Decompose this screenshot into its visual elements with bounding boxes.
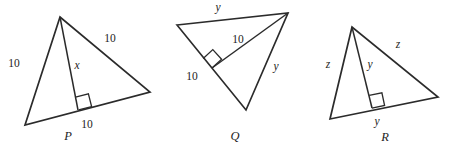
- triangle-p-outline: [25, 17, 150, 125]
- triangle-r-right-side-label: z: [396, 39, 401, 51]
- geometry-figure: 10 10 x 10 P y 10 10 y Q z z y y R: [0, 0, 450, 157]
- triangle-r-left-side-label: z: [326, 59, 331, 71]
- triangle-q-cevian-label: 10: [232, 34, 244, 46]
- triangle-p-right-side-label: 10: [104, 33, 116, 45]
- triangle-q-outline: [177, 13, 288, 110]
- triangle-q-right-side-label: y: [273, 61, 278, 73]
- triangle-q-left-side-label: 10: [186, 71, 198, 83]
- triangle-r-group: [330, 27, 438, 119]
- triangle-p-group: [25, 17, 150, 125]
- triangle-q-top-side-label: y: [215, 2, 220, 14]
- triangle-q-right-angle-marker: [203, 50, 221, 68]
- triangle-r-base-segment-label: y: [374, 116, 379, 128]
- triangle-p-cevian-label: x: [74, 60, 79, 72]
- triangle-q-group: [177, 13, 288, 110]
- triangle-p-name-label: P: [64, 130, 72, 143]
- triangle-r-cevian-label: y: [367, 59, 372, 71]
- triangle-p-base-segment-label: 10: [81, 119, 93, 131]
- triangle-r-name-label: R: [381, 131, 389, 144]
- triangle-q-name-label: Q: [230, 130, 239, 143]
- triangle-p-left-side-label: 10: [8, 58, 20, 70]
